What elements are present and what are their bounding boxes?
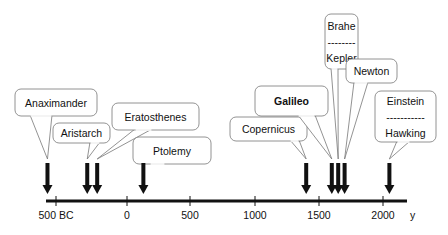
arrow-head bbox=[92, 185, 102, 194]
arrow-head bbox=[384, 185, 394, 194]
arrow-head bbox=[138, 185, 148, 194]
event-label: Einstein bbox=[387, 95, 425, 107]
arrow-shaft bbox=[304, 163, 308, 187]
arrow-shaft bbox=[343, 163, 347, 187]
event-arrow bbox=[384, 163, 394, 194]
event-arrow bbox=[42, 163, 52, 194]
callout-separator: ----------- bbox=[386, 111, 425, 123]
arrow-head bbox=[301, 185, 311, 194]
arrow-shaft bbox=[141, 163, 145, 187]
callouts-layer: AnaximanderAristarchEratosthenesPtolemyC… bbox=[15, 14, 436, 164]
event-label: Aristarch bbox=[61, 127, 103, 139]
arrow-shaft bbox=[85, 163, 89, 187]
event-arrow bbox=[340, 163, 350, 194]
event-einstein-hawking: Einstein-----------Hawking bbox=[375, 91, 436, 159]
event-label: Copernicus bbox=[242, 123, 295, 135]
callout-separator: -------- bbox=[328, 36, 356, 48]
callout-pointer bbox=[30, 115, 52, 159]
event-label: Eratosthenes bbox=[125, 111, 187, 123]
event-arrow bbox=[92, 163, 102, 194]
time-axis: 500 BC0500100015002000 y bbox=[38, 196, 416, 221]
arrows-layer bbox=[42, 163, 394, 194]
tick-label: 500 bbox=[181, 209, 199, 221]
arrow-shaft bbox=[336, 163, 340, 187]
tick-label: 0 bbox=[124, 209, 130, 221]
arrow-shaft bbox=[95, 163, 99, 187]
callout-pointer bbox=[87, 142, 100, 159]
arrow-head bbox=[42, 185, 52, 194]
event-arrow bbox=[138, 163, 148, 194]
event-label: Galileo bbox=[274, 95, 309, 107]
axis-unit-label: y bbox=[410, 209, 416, 221]
tick-label: 1500 bbox=[307, 209, 331, 221]
callout-pointer bbox=[290, 140, 306, 159]
timeline-diagram: AnaximanderAristarchEratosthenesPtolemyC… bbox=[0, 0, 448, 235]
callout-pointer bbox=[345, 82, 368, 159]
event-label: Newton bbox=[354, 65, 390, 77]
event-arrow bbox=[333, 163, 343, 194]
callout-pointer bbox=[389, 141, 410, 159]
arrow-head bbox=[82, 185, 92, 194]
event-aristarch: Aristarch bbox=[53, 123, 110, 159]
arrow-shaft bbox=[387, 163, 391, 187]
arrow-shaft bbox=[45, 163, 49, 187]
tick-label: 2000 bbox=[371, 209, 395, 221]
tick-label: 500 BC bbox=[38, 209, 73, 221]
event-arrow bbox=[82, 163, 92, 194]
event-copernicus: Copernicus bbox=[230, 117, 307, 159]
arrow-head bbox=[340, 185, 350, 194]
arrow-shaft bbox=[330, 163, 334, 187]
event-label: Anaximander bbox=[25, 97, 87, 109]
event-ptolemy: Ptolemy bbox=[133, 137, 211, 164]
event-arrow bbox=[327, 163, 337, 194]
callout-pointer bbox=[331, 68, 338, 159]
event-label: Hawking bbox=[385, 127, 425, 139]
event-label: Ptolemy bbox=[153, 145, 192, 157]
tick-label: 1000 bbox=[243, 209, 267, 221]
event-label: Brahe bbox=[327, 20, 355, 32]
event-arrow bbox=[301, 163, 311, 194]
